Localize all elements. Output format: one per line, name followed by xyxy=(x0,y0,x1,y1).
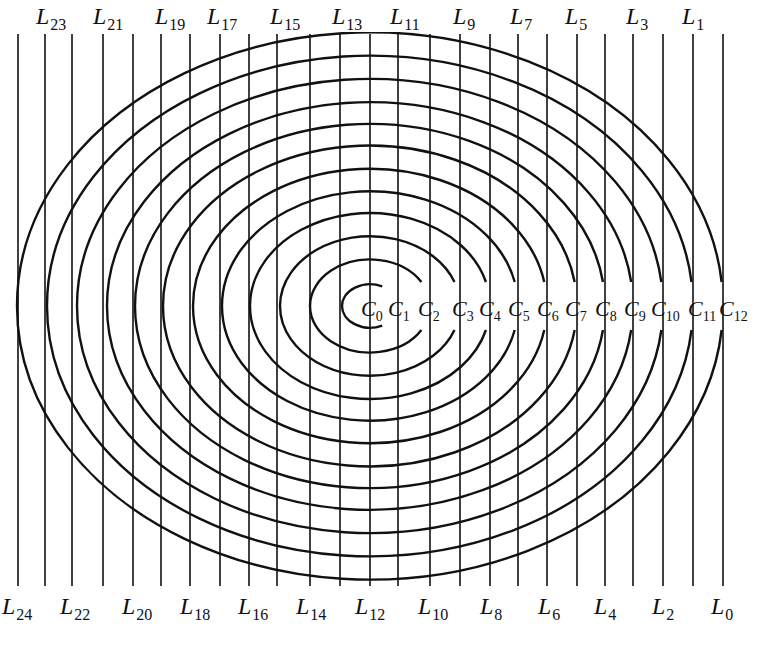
bottom-label-l14: L14 xyxy=(295,593,326,623)
top-label-l1: L1 xyxy=(681,3,704,33)
bottom-label-l2: L2 xyxy=(651,593,674,623)
bottom-line-labels: L24L22L20L18L16L14L12L10L8L6L4L2L0 xyxy=(1,593,733,623)
bottom-label-l12: L12 xyxy=(354,593,385,623)
top-line-labels: L23L21L19L17L15L13L11L9L7L5L3L1 xyxy=(35,3,704,33)
bottom-label-l6: L6 xyxy=(537,593,560,623)
top-label-l7: L7 xyxy=(509,3,532,33)
bottom-label-l18: L18 xyxy=(179,593,210,623)
top-label-l9: L9 xyxy=(452,3,475,33)
center-label-c0: C0 xyxy=(361,296,383,324)
bottom-label-l16: L16 xyxy=(237,593,268,623)
center-label-c2: C2 xyxy=(418,296,440,324)
bottom-label-l22: L22 xyxy=(59,593,90,623)
center-label-c1: C1 xyxy=(388,296,410,324)
concentric-circles-diagram: L23L21L19L17L15L13L11L9L7L5L3L1 L24L22L2… xyxy=(0,0,757,646)
center-label-c10: C10 xyxy=(651,296,680,324)
bottom-label-l4: L4 xyxy=(593,593,616,623)
bottom-label-l0: L0 xyxy=(710,593,733,623)
top-label-l23: L23 xyxy=(35,3,66,33)
top-label-l13: L13 xyxy=(331,3,362,33)
center-label-c12: C12 xyxy=(719,296,748,324)
top-label-l21: L21 xyxy=(92,3,123,33)
top-label-l19: L19 xyxy=(154,3,185,33)
bottom-label-l20: L20 xyxy=(121,593,152,623)
center-point-labels: C0C1C2C3C4C5C6C7C8C9C10C11C12 xyxy=(361,296,748,324)
bottom-label-l24: L24 xyxy=(1,593,32,623)
center-label-c3: C3 xyxy=(452,296,474,324)
center-label-c7: C7 xyxy=(565,296,587,324)
bottom-label-l10: L10 xyxy=(417,593,448,623)
center-label-c9: C9 xyxy=(624,296,646,324)
center-label-c6: C6 xyxy=(537,296,559,324)
center-label-c4: C4 xyxy=(479,296,501,324)
center-label-c11: C11 xyxy=(688,296,716,324)
center-label-c5: C5 xyxy=(508,296,530,324)
top-label-l11: L11 xyxy=(389,3,420,33)
bottom-label-l8: L8 xyxy=(479,593,502,623)
top-label-l3: L3 xyxy=(625,3,648,33)
top-label-l15: L15 xyxy=(269,3,300,33)
top-label-l5: L5 xyxy=(564,3,587,33)
top-label-l17: L17 xyxy=(206,3,237,33)
center-label-c8: C8 xyxy=(595,296,617,324)
